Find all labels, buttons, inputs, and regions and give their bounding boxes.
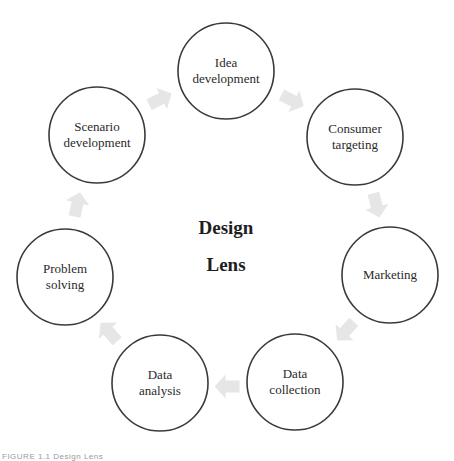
node-label-line: development — [63, 135, 131, 150]
node-label-line: solving — [46, 277, 85, 292]
center-title-line-2: Lens — [206, 254, 245, 275]
flow-arrow-icon — [276, 84, 309, 117]
node-data-collection: Datacollection — [247, 334, 343, 430]
node-label-line: Idea — [215, 55, 238, 70]
node-consumer-targeting: Consumertargeting — [307, 89, 403, 185]
node-data-analysis: Dataanalysis — [112, 335, 208, 431]
flow-arrow-icon — [328, 314, 363, 349]
flow-arrow-icon — [144, 83, 177, 116]
center-title-line-1: Design — [199, 217, 254, 238]
flow-arrow-icon — [214, 374, 239, 398]
node-problem-solving: Problemsolving — [17, 229, 113, 325]
node-idea-development: Ideadevelopment — [178, 23, 274, 119]
node-label-line: Data — [148, 367, 173, 382]
node-label-line: Scenario — [74, 119, 119, 134]
node-label-line: Consumer — [328, 121, 382, 136]
design-lens-diagram: IdeadevelopmentConsumertargetingMarketin… — [0, 0, 454, 461]
node-scenario-development: Scenariodevelopment — [49, 87, 145, 183]
flow-arrow-icon — [362, 190, 391, 220]
node-label-line: Problem — [43, 261, 87, 276]
node-label-line: Marketing — [363, 267, 418, 282]
node-label-line: Data — [283, 366, 308, 381]
node-label-line: targeting — [332, 137, 378, 152]
flow-arrow-icon — [63, 190, 92, 220]
node-marketing: Marketing — [342, 227, 438, 323]
node-label-line: development — [192, 71, 260, 86]
center-title: Design Lens — [199, 217, 254, 275]
figure-caption: FIGURE 1.1 Design Lens — [2, 452, 103, 461]
node-label-line: collection — [269, 382, 321, 397]
flow-arrow-icon — [92, 315, 127, 350]
node-label-line: analysis — [139, 383, 181, 398]
